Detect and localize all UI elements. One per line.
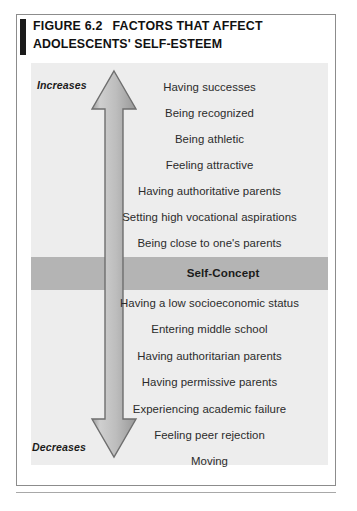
factor-item: Experiencing academic failure bbox=[91, 403, 328, 415]
factor-item: Having authoritative parents bbox=[91, 185, 328, 197]
title-accent-bar bbox=[20, 19, 26, 55]
factor-item: Having authoritarian parents bbox=[91, 350, 328, 362]
factor-item: Being close to one's parents bbox=[91, 237, 328, 249]
figure-number: FIGURE 6.2 bbox=[33, 19, 102, 33]
factor-item: Entering middle school bbox=[91, 323, 328, 335]
factor-item: Having permissive parents bbox=[91, 376, 328, 388]
factor-item: Setting high vocational aspirations bbox=[91, 211, 328, 223]
factor-item: Having successes bbox=[91, 81, 328, 93]
axis-label-increases: Increases bbox=[37, 79, 87, 91]
figure-caption-line2: ADOLESCENTS' SELF-ESTEEM bbox=[33, 37, 222, 51]
factor-item: Having a low socioeconomic status bbox=[91, 297, 328, 309]
bottom-divider bbox=[16, 492, 336, 493]
factor-item: Being athletic bbox=[91, 133, 328, 145]
self-concept-label: Self-Concept bbox=[123, 266, 323, 279]
factor-item: Feeling attractive bbox=[91, 159, 328, 171]
axis-label-decreases: Decreases bbox=[32, 441, 86, 453]
figure-container: FIGURE 6.2FACTORS THAT AFFECT ADOLESCENT… bbox=[0, 0, 357, 511]
factor-item: Feeling peer rejection bbox=[91, 429, 328, 441]
figure-caption-line1: FACTORS THAT AFFECT bbox=[112, 19, 262, 33]
factor-item: Being recognized bbox=[91, 107, 328, 119]
double-headed-arrow-icon bbox=[82, 69, 146, 459]
factor-item: Moving bbox=[91, 455, 328, 467]
diagram-panel: Self-Concept Increases Decreases Having … bbox=[31, 63, 328, 465]
page-title: FIGURE 6.2FACTORS THAT AFFECT ADOLESCENT… bbox=[33, 18, 323, 53]
